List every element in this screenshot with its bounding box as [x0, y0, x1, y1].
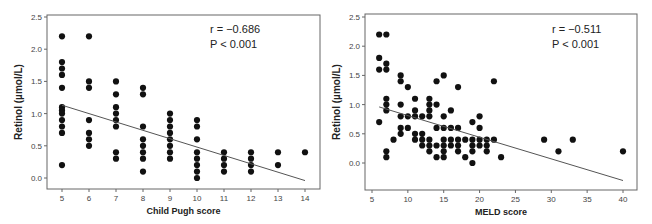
data-point: [441, 148, 447, 154]
data-point: [113, 111, 119, 117]
regression-line: [62, 105, 305, 180]
data-point: [441, 137, 447, 143]
p-value: P < 0.001: [210, 38, 257, 50]
data-point: [248, 168, 254, 174]
y-tick-label: 1.5: [31, 77, 43, 86]
data-point: [541, 137, 547, 143]
x-tick-label: 7: [114, 194, 119, 203]
data-point: [412, 107, 418, 113]
x-tick-label: 20: [475, 195, 484, 204]
data-point: [555, 148, 561, 154]
data-point: [383, 61, 389, 67]
data-point: [113, 156, 119, 162]
data-point: [469, 142, 475, 148]
x-tick-label: 15: [439, 195, 448, 204]
data-point: [426, 142, 432, 148]
data-point: [455, 84, 461, 90]
data-point: [376, 119, 382, 125]
data-point: [412, 96, 418, 102]
y-tick-label: 0.5: [31, 142, 43, 151]
data-point: [248, 149, 254, 155]
data-point: [140, 91, 146, 97]
data-point: [398, 78, 404, 84]
data-point: [498, 154, 504, 160]
data-point: [140, 85, 146, 91]
data-point: [462, 154, 468, 160]
data-point: [383, 66, 389, 72]
data-point: [426, 107, 432, 113]
data-point: [59, 123, 65, 129]
x-tick-label: 5: [60, 194, 65, 203]
data-point: [441, 72, 447, 78]
data-point: [86, 78, 92, 84]
data-point: [469, 148, 475, 154]
data-point: [167, 123, 173, 129]
data-point: [398, 72, 404, 78]
data-point: [491, 78, 497, 84]
data-point: [86, 33, 92, 39]
data-point: [441, 154, 447, 160]
y-tick-label: 2.5: [349, 13, 361, 22]
data-point: [412, 131, 418, 137]
data-point: [419, 142, 425, 148]
data-point: [59, 162, 65, 168]
data-point: [140, 136, 146, 142]
data-point: [484, 142, 490, 148]
data-point: [398, 125, 404, 131]
x-tick-label: 14: [301, 194, 310, 203]
x-tick-label: 30: [547, 195, 556, 204]
data-point: [383, 31, 389, 37]
data-point: [398, 131, 404, 137]
data-point: [167, 117, 173, 123]
data-point: [405, 84, 411, 90]
data-point: [86, 85, 92, 91]
regression-line: [379, 107, 623, 181]
data-point: [194, 117, 200, 123]
data-point: [376, 66, 382, 72]
y-tick-label: 1.0: [31, 110, 43, 119]
data-point: [167, 130, 173, 136]
data-point: [376, 31, 382, 37]
data-point: [167, 111, 173, 117]
x-tick-label: 40: [619, 195, 628, 204]
data-point: [194, 168, 200, 174]
data-point: [194, 149, 200, 155]
y-tick-label: 0.0: [349, 159, 361, 168]
data-point: [426, 96, 432, 102]
data-point: [59, 117, 65, 123]
data-point: [194, 156, 200, 162]
data-point: [455, 137, 461, 143]
x-tick-label: 12: [247, 194, 256, 203]
y-tick-label: 0.0: [31, 174, 43, 183]
data-point: [426, 137, 432, 143]
data-point: [398, 102, 404, 108]
data-point: [86, 130, 92, 136]
data-point: [140, 143, 146, 149]
data-point: [59, 111, 65, 117]
data-point: [405, 125, 411, 131]
data-point: [448, 137, 454, 143]
data-point: [426, 113, 432, 119]
data-point: [383, 154, 389, 160]
data-point: [221, 162, 227, 168]
data-point: [441, 142, 447, 148]
data-point: [167, 156, 173, 162]
x-tick-label: 6: [87, 194, 92, 203]
data-point: [448, 107, 454, 113]
x-axis-label: Child Pugh score: [146, 206, 220, 216]
data-point: [113, 123, 119, 129]
data-point: [86, 117, 92, 123]
data-point: [426, 148, 432, 154]
data-point: [419, 131, 425, 137]
data-point: [419, 137, 425, 143]
data-point: [455, 148, 461, 154]
data-point: [419, 113, 425, 119]
data-point: [412, 137, 418, 143]
data-point: [455, 142, 461, 148]
data-point: [167, 143, 173, 149]
data-point: [86, 143, 92, 149]
data-point: [448, 142, 454, 148]
y-tick-label: 0.5: [349, 130, 361, 139]
data-point: [113, 104, 119, 110]
data-point: [376, 55, 382, 61]
